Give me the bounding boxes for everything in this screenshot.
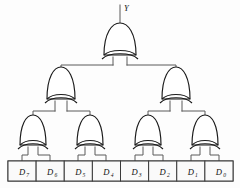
wire-bot3-to-d3 xyxy=(135,147,143,161)
wire-bot4-to-d1 xyxy=(191,147,200,161)
wire-top-to-midl xyxy=(61,65,113,67)
input-box-label: D xyxy=(215,167,223,177)
gate-xor-bot-2[interactable] xyxy=(75,115,105,149)
wire-bot1-to-d6 xyxy=(38,147,50,161)
wire-bot1-to-d7 xyxy=(22,147,28,161)
input-box-label: D xyxy=(159,167,167,177)
input-box-d6[interactable]: D6 xyxy=(36,161,64,181)
input-box-subscript: 5 xyxy=(83,172,86,178)
input-box-subscript: 4 xyxy=(111,172,114,178)
input-box-d7[interactable]: D7 xyxy=(8,161,36,181)
input-box-d2[interactable]: D2 xyxy=(149,161,177,181)
wire-bot3-to-d2 xyxy=(153,147,163,161)
circuit-canvas: Y xyxy=(0,0,240,188)
input-box-subscript: 0 xyxy=(223,172,226,178)
gate-xor-top[interactable] xyxy=(102,23,138,59)
input-box-label: D xyxy=(130,167,138,177)
input-box-label: D xyxy=(46,167,54,177)
input-box-label: D xyxy=(18,167,26,177)
wire-bot2-to-d5 xyxy=(78,147,85,161)
wire-top-to-midr xyxy=(127,65,176,67)
input-box-d0[interactable]: D0 xyxy=(205,161,233,181)
input-box-row: D7D6D5D4D3D2D1D0 xyxy=(8,161,233,181)
wires-level1-inputs xyxy=(61,57,176,67)
input-box-subscript: 6 xyxy=(54,172,57,178)
gate-xor-mid-right[interactable] xyxy=(160,67,192,103)
input-box-d5[interactable]: D5 xyxy=(64,161,92,181)
gate-xor-bot-1[interactable] xyxy=(18,115,48,149)
input-box-label: D xyxy=(187,167,195,177)
gate-xor-mid-left[interactable] xyxy=(45,67,77,103)
input-box-subscript: 2 xyxy=(167,172,170,178)
wire-bot4-to-d0 xyxy=(210,147,219,161)
input-box-d3[interactable]: D3 xyxy=(121,161,149,181)
wire-midl-to-bot1 xyxy=(33,111,55,115)
wire-midr-to-bot3 xyxy=(148,111,170,115)
wire-midl-to-bot2 xyxy=(67,111,90,115)
input-box-d1[interactable]: D1 xyxy=(177,161,205,181)
input-box-d4[interactable]: D4 xyxy=(92,161,120,181)
input-box-subscript: 3 xyxy=(138,172,142,178)
input-box-label: D xyxy=(74,167,82,177)
input-box-subscript: 1 xyxy=(195,172,198,178)
input-box-subscript: 7 xyxy=(26,172,29,178)
wire-midr-to-bot4 xyxy=(182,111,205,115)
circuit-diagram: Y xyxy=(0,0,240,188)
gate-xor-bot-3[interactable] xyxy=(133,115,163,149)
wires-level2-inputs xyxy=(33,101,205,115)
gate-xor-bot-4[interactable] xyxy=(190,115,220,149)
output-label-y: Y xyxy=(124,4,130,13)
input-box-label: D xyxy=(102,167,110,177)
wires-level3-inputs xyxy=(22,147,219,161)
